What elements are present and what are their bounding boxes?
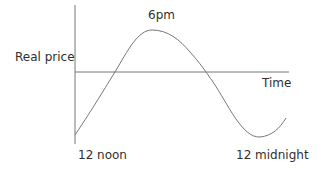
peak-label: 6pm	[148, 8, 175, 22]
price-curve	[75, 30, 286, 137]
start-label: 12 noon	[78, 148, 127, 162]
end-label: 12 midnight	[236, 148, 309, 162]
y-axis-label: Real price	[15, 50, 75, 64]
x-axis-label: Time	[262, 76, 291, 90]
